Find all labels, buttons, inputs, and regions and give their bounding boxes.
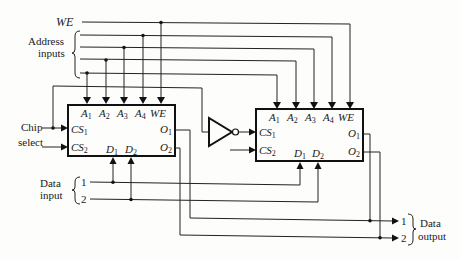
pin-a2: A2 bbox=[286, 111, 298, 125]
pin-o1: O1 bbox=[160, 123, 172, 137]
data-output-2-label: 2 bbox=[401, 232, 407, 244]
pin-a1: A1 bbox=[268, 111, 280, 125]
data-input-1-label: 1 bbox=[81, 176, 87, 188]
memory-chip-right: A1 A2 A3 A4 WE CS1 CS2 D1 D2 O1 O2 bbox=[256, 109, 363, 161]
pin-a3: A3 bbox=[116, 107, 128, 121]
memory-chip-left: A1 A2 A3 A4 WE CS1 CS2 D1 D2 O1 O2 bbox=[68, 105, 175, 157]
we-line bbox=[82, 21, 354, 109]
data-output-line-2 bbox=[175, 148, 399, 242]
chip-select-label-line2: select bbox=[18, 136, 43, 148]
pin-d2: D2 bbox=[124, 143, 137, 157]
address-inputs-label-line2: inputs bbox=[38, 47, 65, 59]
data-input-2-label: 2 bbox=[81, 193, 87, 205]
pin-d1: D1 bbox=[105, 143, 118, 157]
pin-d2: D2 bbox=[311, 147, 324, 161]
address-line-a2 bbox=[80, 58, 300, 109]
we-input-label: WE bbox=[56, 15, 74, 29]
memory-circuit-diagram: WE Address inputs Chip select A1 A2 A3 A… bbox=[0, 0, 460, 259]
data-output-label-line1: Data bbox=[420, 217, 441, 229]
pin-we: WE bbox=[338, 111, 354, 123]
data-input-line-2 bbox=[90, 157, 322, 202]
data-output-label-line2: output bbox=[418, 230, 446, 242]
pin-o2: O2 bbox=[160, 141, 172, 155]
pin-we: WE bbox=[150, 107, 166, 119]
pin-o1: O1 bbox=[348, 127, 360, 141]
data-output-1-label: 1 bbox=[401, 215, 407, 227]
pin-o2: O2 bbox=[348, 145, 360, 159]
address-brace bbox=[72, 31, 80, 78]
data-input-label-line2: input bbox=[40, 189, 63, 201]
pin-cs2: CS2 bbox=[71, 141, 88, 155]
pin-a3: A3 bbox=[304, 111, 316, 125]
pin-cs1: CS1 bbox=[71, 123, 88, 137]
circuit-svg: WE Address inputs Chip select A1 A2 A3 A… bbox=[0, 0, 460, 259]
pin-cs2: CS2 bbox=[259, 144, 276, 158]
data-output-brace bbox=[408, 214, 416, 245]
chip-select-label-line1: Chip bbox=[21, 121, 43, 133]
address-line-a3 bbox=[80, 46, 318, 109]
pin-d1: D1 bbox=[293, 147, 306, 161]
inverter-gate bbox=[209, 118, 256, 146]
pin-a4: A4 bbox=[134, 107, 146, 121]
pin-a1: A1 bbox=[80, 107, 92, 121]
pin-a2: A2 bbox=[98, 107, 110, 121]
data-input-brace bbox=[72, 177, 80, 204]
pin-cs1: CS1 bbox=[259, 126, 276, 140]
address-inputs-label-line1: Address bbox=[28, 35, 64, 47]
pin-a4: A4 bbox=[322, 111, 334, 125]
data-input-label-line1: Data bbox=[40, 177, 61, 189]
address-line-a4 bbox=[80, 34, 336, 109]
address-line-a1 bbox=[80, 71, 281, 109]
